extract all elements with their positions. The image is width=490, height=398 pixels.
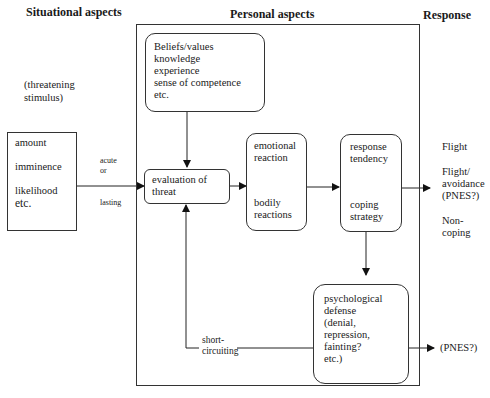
emotional-line: reaction: [254, 152, 288, 165]
acute-label: acute: [100, 156, 117, 166]
beliefs-line: sense of competence: [154, 77, 241, 90]
situational-item: likelihood: [15, 185, 58, 198]
evaluation-box: evaluation of threat: [144, 169, 230, 204]
bodily-line: bodily: [254, 197, 281, 210]
situational-item: etc.: [15, 197, 31, 210]
situational-box: amount imminence likelihood etc.: [7, 132, 77, 231]
defense-line: psychological: [324, 293, 382, 306]
or-label: or: [100, 166, 107, 176]
defense-line: fainting?: [324, 341, 361, 354]
beliefs-line: knowledge: [154, 53, 200, 66]
response-flight-avoidance: Flight/: [442, 166, 470, 179]
defense-line: defense: [324, 305, 356, 318]
evaluation-line: threat: [152, 186, 176, 199]
defense-line: (denial,: [324, 317, 356, 330]
stimulus-label-1: (threatening: [24, 79, 75, 92]
beliefs-line: etc.: [154, 89, 169, 102]
stimulus-label-2: stimulus): [24, 92, 63, 105]
situational-item: amount: [15, 137, 47, 150]
diagram: Situational aspects Personal aspects Res…: [0, 0, 490, 398]
response-tendency-line: tendency: [350, 153, 388, 166]
coping-line: strategy: [350, 211, 383, 224]
emotional-reaction-box: emotional reaction bodily reactions: [246, 133, 307, 231]
bodily-line: reactions: [254, 209, 292, 222]
short-circuit-line: short-: [202, 335, 224, 346]
response-flight: Flight: [442, 141, 467, 154]
situational-item: imminence: [15, 161, 62, 174]
short-circuit-line: circuiting: [202, 346, 238, 357]
response-noncoping: Non-: [442, 215, 464, 228]
response-noncoping: coping: [442, 227, 471, 240]
response-pnes: (PNES?): [440, 342, 477, 355]
beliefs-line: Beliefs/values: [154, 41, 213, 54]
header-personal: Personal aspects: [230, 7, 314, 22]
response-flight-avoidance: avoidance: [442, 178, 485, 191]
response-flight-avoidance: (PNES?): [442, 190, 479, 203]
emotional-line: emotional: [254, 140, 296, 153]
header-situational: Situational aspects: [26, 5, 122, 20]
defense-line: etc.): [324, 353, 342, 366]
response-tendency-box: response tendency coping strategy: [340, 134, 402, 232]
lasting-label: lasting: [100, 198, 121, 208]
header-response: Response: [423, 8, 471, 23]
evaluation-line: evaluation of: [152, 174, 207, 187]
beliefs-line: experience: [154, 65, 199, 78]
defense-line: repression,: [324, 329, 370, 342]
coping-line: coping: [350, 199, 379, 212]
response-tendency-line: response: [350, 141, 387, 154]
beliefs-box: Beliefs/values knowledge experience sens…: [145, 33, 265, 112]
psychological-defense-box: psychological defense (denial, repressio…: [313, 284, 409, 384]
